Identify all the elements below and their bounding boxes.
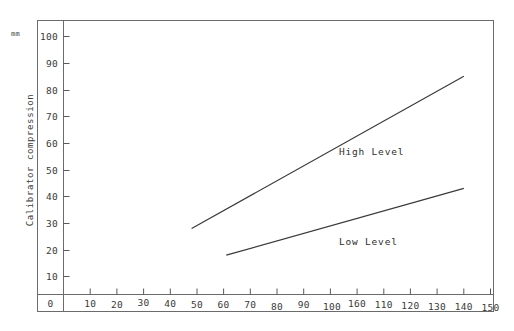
x-tick-label: 40	[164, 298, 176, 309]
x-tick-label: 10	[84, 298, 96, 309]
x-tick-label: 160	[348, 298, 366, 309]
y-tick-label: 20	[46, 245, 58, 256]
series-label-high-level: High Level	[339, 146, 404, 157]
x-tick-label: 60	[218, 299, 230, 310]
chart-outer-frame	[38, 21, 494, 312]
x-tick-label: 150	[481, 302, 499, 313]
y-tick-label: 70	[46, 111, 58, 122]
x-axis-tick-labels: 0 10 20 30 40 50 60 70 80 90 100 110 120…	[47, 297, 499, 313]
calibrator-compression-line-chart: 100 90 80 70 60 50 40 30 20 10	[0, 0, 514, 331]
x-tick-label: 50	[191, 299, 203, 310]
y-tick-label: 90	[46, 58, 58, 69]
x-tick-label: 70	[244, 299, 256, 310]
x-tick-label: 30	[138, 297, 150, 308]
series-label-low-level: Low Level	[339, 236, 398, 247]
x-tick-label: 20	[111, 299, 123, 310]
x-tick-label: 120	[401, 300, 419, 311]
y-axis-ticks	[64, 37, 70, 277]
x-tick-label: 130	[428, 301, 446, 312]
x-tick-label: 0	[47, 298, 53, 309]
x-tick-label: 90	[298, 299, 310, 310]
y-axis-title: Calibrator compression	[25, 60, 35, 260]
y-tick-label: 50	[46, 165, 58, 176]
x-tick-label: 80	[271, 301, 283, 312]
y-tick-label: 80	[46, 85, 58, 96]
y-tick-label: 10	[46, 271, 58, 282]
y-axis-tick-labels: 100 90 80 70 60 50 40 30 20 10	[40, 31, 58, 282]
data-series-layer	[192, 76, 464, 255]
x-tick-label: 100	[323, 301, 341, 312]
x-tick-label: 140	[455, 301, 473, 312]
chart-container: 100 90 80 70 60 50 40 30 20 10	[0, 0, 514, 331]
y-tick-label: 40	[46, 191, 58, 202]
y-axis-unit-label: mm	[11, 30, 20, 38]
x-tick-label: 110	[375, 299, 393, 310]
y-tick-label: 60	[46, 138, 58, 149]
x-axis-ticks	[90, 289, 490, 295]
y-tick-label: 100	[40, 31, 58, 42]
series-line-high-level	[192, 76, 464, 228]
y-tick-label: 30	[46, 218, 58, 229]
